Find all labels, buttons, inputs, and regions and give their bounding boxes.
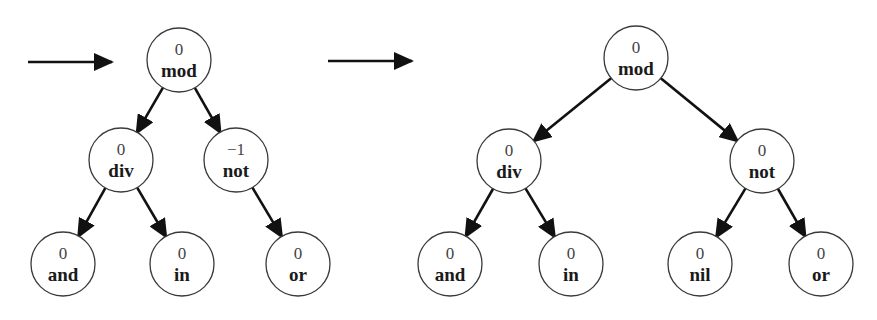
edge-after-div-and <box>465 189 493 237</box>
node-balance-value: −1 <box>227 140 245 159</box>
tree-node-after-mod: 0mod <box>604 26 668 90</box>
node-balance-value: 0 <box>567 244 576 263</box>
tree-diagram: 0mod0div−1not0and0in0or0mod0div0not0and0… <box>0 0 877 320</box>
node-balance-value: 0 <box>178 244 187 263</box>
edge-before-div-in <box>137 188 166 238</box>
node-label: or <box>289 264 308 285</box>
node-label: nil <box>689 264 710 285</box>
edge-after-not-nil <box>716 188 746 237</box>
tree-node-after-not: 0not <box>730 129 794 193</box>
edge-after-mod-not <box>661 78 738 141</box>
edge-after-div-in <box>526 188 556 237</box>
node-label: not <box>223 160 250 181</box>
node-label: not <box>749 161 776 182</box>
node-label: and <box>48 264 79 285</box>
node-label: mod <box>161 60 197 81</box>
node-balance-value: 0 <box>175 40 184 59</box>
tree-node-after-and: 0and <box>418 232 482 296</box>
tree-node-before-not: −1not <box>204 128 268 192</box>
node-balance-value: 0 <box>446 244 455 263</box>
node-label: in <box>563 264 579 285</box>
node-label: in <box>174 264 190 285</box>
node-balance-value: 0 <box>696 244 705 263</box>
node-balance-value: 0 <box>59 244 68 263</box>
tree-node-before-in: 0in <box>150 232 214 296</box>
edge-before-not-or <box>252 187 282 237</box>
tree-node-before-and: 0and <box>31 232 95 296</box>
node-balance-value: 0 <box>817 244 826 263</box>
node-balance-value: 0 <box>294 244 303 263</box>
tree-node-before-mod: 0mod <box>147 28 211 92</box>
node-balance-value: 0 <box>505 141 514 160</box>
node-balance-value: 0 <box>632 38 641 57</box>
tree-node-after-in: 0in <box>539 232 603 296</box>
edge-after-mod-div <box>533 78 611 141</box>
node-balance-value: 0 <box>117 140 126 159</box>
edge-before-div-and <box>78 188 105 237</box>
tree-node-after-nil: 0nil <box>668 232 732 296</box>
edge-before-mod-not <box>195 88 221 133</box>
edge-after-not-or <box>778 189 806 237</box>
node-label: div <box>496 161 522 182</box>
tree-node-after-or: 0or <box>789 232 853 296</box>
node-label: or <box>812 264 831 285</box>
tree-node-before-div: 0div <box>89 128 153 192</box>
edge-before-mod-div <box>137 88 163 134</box>
node-label: div <box>108 160 134 181</box>
node-balance-value: 0 <box>758 141 767 160</box>
tree-node-after-div: 0div <box>477 129 541 193</box>
node-label: mod <box>618 58 654 79</box>
tree-node-before-or: 0or <box>266 232 330 296</box>
node-label: and <box>435 264 466 285</box>
